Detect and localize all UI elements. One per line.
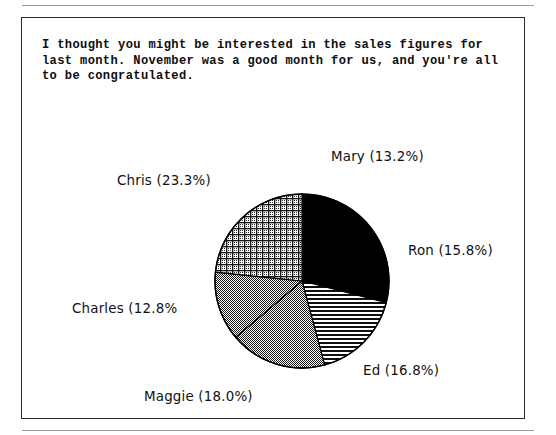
pie-chart-svg bbox=[22, 18, 526, 420]
pie-slice-chris bbox=[215, 194, 302, 281]
pie-label-charles: Charles (12.8% bbox=[72, 301, 177, 316]
pie-chart: Mary (13.2%) Ron (15.8%) Ed (16.8%) Magg… bbox=[22, 18, 526, 420]
page-rule-bottom bbox=[22, 430, 534, 431]
pie-label-ed: Ed (16.8%) bbox=[363, 363, 439, 378]
pie-label-chris: Chris (23.3%) bbox=[117, 173, 211, 188]
pie-slice-group bbox=[215, 194, 389, 368]
page-rule-top bbox=[22, 5, 534, 6]
pie-label-mary: Mary (13.2%) bbox=[331, 149, 424, 164]
pie-label-ron: Ron (15.8%) bbox=[408, 243, 493, 258]
figure-frame: I thought you might be interested in the… bbox=[21, 17, 525, 419]
pie-label-maggie: Maggie (18.0%) bbox=[144, 389, 253, 404]
